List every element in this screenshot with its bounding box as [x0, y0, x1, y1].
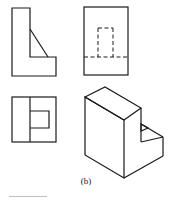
- isometric-view: [85, 87, 163, 178]
- front-view: [12, 8, 56, 76]
- side-view: [84, 7, 128, 75]
- figure-caption: (b): [0, 176, 172, 186]
- divider-rule: [9, 196, 47, 197]
- top-view: [12, 97, 56, 142]
